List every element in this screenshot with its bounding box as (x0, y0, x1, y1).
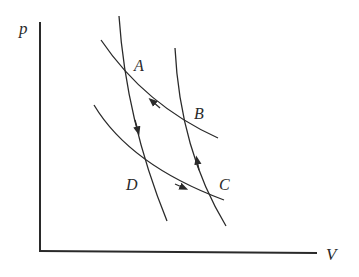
pv-diagram-svg: p V A B C D (0, 0, 359, 277)
point-d-label: D (125, 176, 138, 193)
right-adiabat-curve (175, 48, 226, 226)
point-c-label: C (219, 176, 230, 193)
point-b-label: B (194, 105, 204, 122)
axes (39, 22, 317, 253)
lower-isotherm-curve (94, 105, 224, 200)
pv-diagram: p V A B C D (0, 0, 359, 277)
upper-isotherm-curve (101, 40, 218, 138)
x-axis-label: V (326, 245, 339, 264)
point-a-label: A (133, 57, 144, 74)
y-axis-label: p (18, 19, 28, 38)
x-axis (39, 251, 317, 253)
arrow-d-to-c-icon (175, 184, 184, 188)
